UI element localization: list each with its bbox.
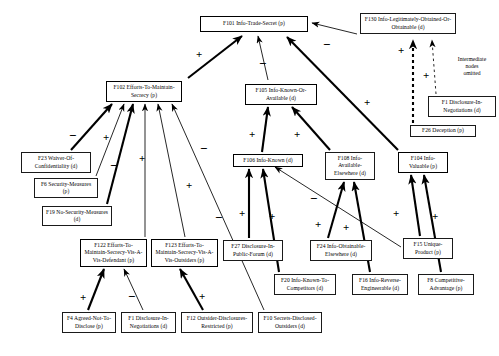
node-label: F15 Unique-Product (p) bbox=[406, 241, 450, 256]
node-f1a[interactable]: F1 Disclosure-In-Negotiations (d) bbox=[121, 312, 176, 333]
sign-F123-F102: − bbox=[200, 143, 207, 154]
node-label: F24 Info-Obtainable-Elsewhere (d) bbox=[313, 243, 369, 258]
node-label: F26 Deception (p) bbox=[422, 127, 464, 134]
sign-F1a-F122: − bbox=[128, 291, 135, 302]
node-label: F8 Competitive-Advantage (p) bbox=[421, 277, 471, 292]
node-f19[interactable]: F19 No-Security-Measures (d) bbox=[42, 206, 112, 226]
node-label: F101 Info-Trade-Secret (p) bbox=[223, 20, 285, 27]
edge-F106-F105 bbox=[262, 107, 268, 152]
edge-F1b-F130 bbox=[432, 40, 436, 94]
sign-F12-F123: + bbox=[199, 291, 205, 302]
node-label: F1 Disclosure-In-Negotiations (d) bbox=[124, 315, 173, 330]
sign-F8-F104: + bbox=[432, 211, 438, 222]
node-label: F23 Waiver-Of-Confidentiality (d) bbox=[24, 155, 88, 170]
node-f130[interactable]: F130 Info-Legitimately-Obtained-Or-Obtai… bbox=[360, 13, 456, 34]
edge-F4-F122 bbox=[88, 269, 104, 310]
node-f16[interactable]: F16 Info-Reverse-Engineerable (d) bbox=[352, 274, 408, 295]
sign-F15-F104: + bbox=[393, 208, 399, 219]
node-f123[interactable]: F123 Efforts-To-Maintain-Secrecy-Vis-A-V… bbox=[151, 239, 218, 267]
node-label: F102 Efforts-To-Maintain-Secrecy (p) bbox=[109, 84, 179, 99]
node-f24[interactable]: F24 Info-Obtainable-Elsewhere (d) bbox=[310, 240, 372, 261]
sign-F104-F101: + bbox=[364, 97, 370, 108]
node-f122[interactable]: F122 Efforts-To-Maintain-Secrecy-Vis-A-V… bbox=[80, 239, 147, 267]
node-label: F16 Info-Reverse-Engineerable (d) bbox=[355, 277, 405, 292]
node-label: F10 Secrets-Disclosed-Outsiders (d) bbox=[261, 315, 319, 330]
node-f15[interactable]: F15 Unique-Product (p) bbox=[403, 238, 453, 259]
node-f23[interactable]: F23 Waiver-Of-Confidentiality (d) bbox=[21, 152, 91, 173]
note-line: omitted bbox=[447, 70, 497, 77]
node-f10[interactable]: F10 Secrets-Disclosed-Outsiders (d) bbox=[258, 312, 322, 333]
sign-F19-F102: − bbox=[110, 160, 117, 171]
node-label: F6 Security-Measures (p) bbox=[37, 181, 95, 196]
node-label: F106 Info-Known (d) bbox=[243, 157, 292, 164]
node-f4[interactable]: F4 Agreed-Not-To-Disclose (p) bbox=[62, 312, 116, 333]
sign-F105-F101: − bbox=[259, 58, 266, 69]
sign-F130-F101: − bbox=[323, 39, 330, 50]
node-f27[interactable]: F27 Disclosure-In-Public-Forum (d) bbox=[223, 240, 283, 261]
node-f8[interactable]: F8 Competitive-Advantage (p) bbox=[418, 274, 474, 295]
node-label: F108 Info-Available-Elsewhere (d) bbox=[328, 155, 372, 177]
node-f1b[interactable]: F1 Disclosure-In-Negotiations (d) bbox=[428, 96, 496, 117]
sign-F1b-F130: + bbox=[423, 70, 429, 81]
node-label: F123 Efforts-To-Maintain-Secrecy-Vis-A-V… bbox=[154, 242, 215, 264]
node-label: F130 Info-Legitimately-Obtained-Or-Obtai… bbox=[363, 16, 453, 31]
node-f108[interactable]: F108 Info-Available-Elsewhere (d) bbox=[325, 152, 375, 180]
node-label: F12 Outsider-Disclosures-Restricted (p) bbox=[184, 315, 250, 330]
influence-diagram: F101 Info-Trade-Secret (p)F130 Info-Legi… bbox=[0, 0, 499, 356]
sign-F20-F106: + bbox=[269, 211, 275, 222]
note-line: nodes bbox=[447, 63, 497, 70]
sign-F23-F102: − bbox=[69, 130, 76, 141]
sign-F10-F102b: − bbox=[215, 212, 222, 223]
sign-F106-F105: + bbox=[249, 129, 255, 140]
note-line: Intermediate bbox=[447, 56, 497, 63]
sign-F26-F130: + bbox=[398, 45, 404, 56]
node-f20[interactable]: F20 Info-Known-To-Competitors (d) bbox=[274, 274, 336, 295]
node-f26[interactable]: F26 Deception (p) bbox=[410, 125, 476, 137]
sign-F4-F122: + bbox=[80, 292, 86, 303]
sign-F27-F106: + bbox=[239, 208, 245, 219]
node-label: F104 Info-Valuable (p) bbox=[401, 155, 445, 170]
node-f105[interactable]: F105 Info-Known-Or-Available (d) bbox=[245, 84, 317, 105]
node-label: F105 Info-Known-Or-Available (d) bbox=[248, 87, 314, 102]
sign-F108-F105: + bbox=[294, 129, 300, 140]
edge-F15-F104 bbox=[411, 175, 420, 236]
node-f12[interactable]: F12 Outsider-Disclosures-Restricted (p) bbox=[181, 312, 253, 333]
node-f106[interactable]: F106 Info-Known (d) bbox=[233, 154, 303, 167]
edge-F19-F102 bbox=[107, 104, 133, 204]
node-f104[interactable]: F104 Info-Valuable (p) bbox=[398, 152, 448, 173]
node-label: F4 Agreed-Not-To-Disclose (p) bbox=[65, 315, 113, 330]
sign-F10-F102: + bbox=[186, 180, 192, 191]
node-label: F1 Disclosure-In-Negotiations (d) bbox=[431, 99, 493, 114]
edge-F24-F108 bbox=[328, 182, 344, 238]
node-f102[interactable]: F102 Efforts-To-Maintain-Secrecy (p) bbox=[106, 81, 182, 102]
sign-F6-F102: + bbox=[103, 132, 109, 143]
sign-F15-F106: − bbox=[310, 193, 317, 204]
node-label: F122 Efforts-To-Maintain-Secrecy-Vis-A-V… bbox=[83, 242, 144, 264]
edge-F130-F101 bbox=[312, 23, 357, 34]
node-label: F20 Info-Known-To-Competitors (d) bbox=[277, 277, 333, 292]
sign-F122-F102: + bbox=[139, 153, 145, 164]
sign-F24-F108: + bbox=[315, 219, 321, 230]
node-label: F27 Disclosure-In-Public-Forum (d) bbox=[226, 243, 280, 258]
sign-F16-F108: + bbox=[343, 222, 349, 233]
edge-F23-F102 bbox=[71, 104, 112, 150]
node-label: F19 No-Security-Measures (d) bbox=[45, 209, 109, 224]
sign-F102-F101: + bbox=[196, 49, 202, 60]
intermediate-nodes-note: Intermediatenodesomitted bbox=[447, 56, 497, 78]
node-f101[interactable]: F101 Info-Trade-Secret (p) bbox=[200, 16, 308, 32]
node-f6[interactable]: F6 Security-Measures (p) bbox=[34, 178, 98, 198]
